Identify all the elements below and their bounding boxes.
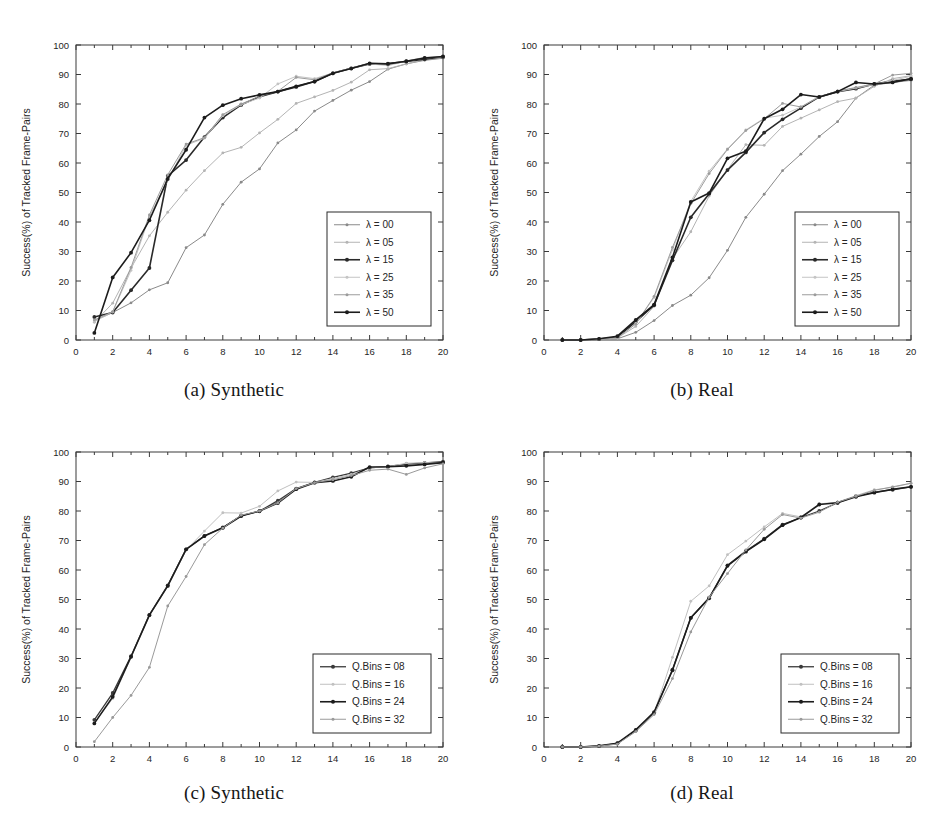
series-marker [726,572,729,575]
panel-caption-a: (a) Synthetic [0,379,468,401]
y-tick-label: 80 [526,99,537,110]
legend-swatch-marker [346,223,349,226]
legend-label: λ = 50 [366,307,394,318]
series-marker [873,489,876,492]
series-marker [295,102,298,105]
series-marker [598,745,601,748]
series-marker [332,89,335,92]
legend-label: λ = 35 [366,289,394,300]
x-tick-label: 2 [110,753,115,764]
y-tick-label: 100 [521,447,537,458]
series-marker [800,117,803,120]
series-marker [221,511,224,514]
chart-svg-panel-d: 024681012141618200102030405060708090100A… [468,407,936,767]
series-marker [653,319,656,322]
x-tick-label: 16 [364,753,375,764]
y-tick-label: 100 [53,447,69,458]
y-tick-label: 70 [58,535,69,546]
series-marker [726,553,729,556]
series-marker [350,474,353,477]
series-marker [92,331,96,335]
series-marker [689,600,692,603]
series-marker [781,169,784,172]
series-marker [689,616,693,620]
legend-label: λ = 00 [366,219,394,230]
legend-label: λ = 25 [834,272,862,283]
series-marker [744,149,748,153]
series-marker [368,68,371,71]
series-marker [561,746,564,749]
y-tick-label: 90 [526,476,537,487]
series-marker [855,495,858,498]
series-marker [891,81,895,85]
y-tick-label: 80 [58,99,69,110]
series-marker [111,716,114,719]
series-marker [653,713,656,716]
series-marker [442,462,445,465]
series-marker [276,501,279,504]
legend-swatch-marker [799,700,803,704]
series-marker [92,315,96,319]
plot-area-b: 024681012141618200102030405060708090100A… [468,0,936,360]
legend-swatch-marker [331,700,335,704]
series-marker [313,96,316,99]
series-marker [708,276,711,279]
series-marker [744,216,747,219]
legend-label: Q.Bins = 32 [352,714,405,725]
series-marker [258,93,262,97]
x-tick-label: 8 [688,753,693,764]
series-marker [368,465,372,469]
y-tick-label: 80 [58,506,69,517]
series-marker [800,517,803,520]
series-marker [671,656,674,659]
legend-swatch-marker [813,258,817,262]
series-marker [653,295,656,298]
series-marker [762,117,766,121]
y-tick-label: 60 [526,158,537,169]
series-marker [597,337,601,341]
y-tick-label: 20 [58,276,69,287]
series-marker [616,743,619,746]
series-marker [240,514,243,517]
legend-swatch-marker [814,276,817,279]
series-marker [762,131,766,135]
y-tick-label: 80 [526,506,537,517]
y-tick-label: 90 [526,69,537,80]
series-marker [148,218,152,222]
series-marker [634,318,638,322]
x-tick-label: 16 [364,346,375,357]
series-marker [239,97,243,101]
legend-swatch-marker [345,258,349,262]
figure-container: 024681012141618200102030405060708090100A… [0,0,936,815]
series-marker [221,203,224,206]
y-tick-label: 50 [58,187,69,198]
series-marker [744,129,747,132]
series-marker [762,537,766,541]
series-marker [148,666,151,669]
series-marker [387,67,390,70]
legend-label: λ = 00 [834,219,862,230]
series-marker [203,234,206,237]
x-tick-label: 2 [110,346,115,357]
y-axis-title: Success(%) of Tracked Frame-Pairs [488,108,500,277]
legend-label: Q.Bins = 24 [352,696,405,707]
legend-swatch-marker [346,276,349,279]
series-marker [763,144,766,147]
series-marker [166,605,169,608]
y-axis-title: Success(%) of Tracked Frame-Pairs [20,108,32,277]
series-marker [331,71,335,75]
series-marker [744,540,747,543]
series-marker [726,156,730,160]
plot-area-d: 024681012141618200102030405060708090100A… [468,407,936,767]
series-marker [294,84,298,88]
series-marker [295,129,298,132]
series-marker [616,334,620,338]
series-marker [368,61,372,65]
y-tick-label: 20 [526,683,537,694]
panel-b-real-lambda: 024681012141618200102030405060708090100A… [468,0,936,407]
y-tick-label: 0 [532,742,537,753]
series-marker [817,503,821,507]
series-marker [185,575,188,578]
series-marker [129,251,133,255]
series-marker [726,148,729,151]
